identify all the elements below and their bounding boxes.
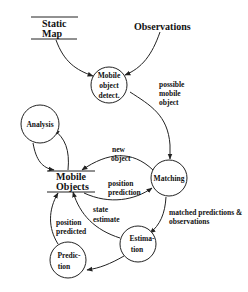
process-estimation: Estima- tion — [120, 226, 156, 262]
estimation-label-1: Estima- — [130, 234, 156, 243]
edge-label-line: estimate — [93, 215, 120, 224]
edge-label-line: matched predictions & — [169, 208, 242, 217]
analysis-label: Analysis — [26, 120, 53, 129]
label-position-predicted: position predicted — [56, 218, 87, 236]
process-mobile-object-detect: Mobile object detect. — [91, 67, 127, 103]
detect-label-3: detect. — [98, 91, 119, 100]
prediction-label-1: Predic- — [57, 251, 81, 260]
label-position-prediction: position prediction — [108, 179, 142, 197]
edge-label-line: position — [56, 218, 82, 227]
label-matched-predictions: matched predictions & observations — [169, 208, 242, 226]
edge-static-map-to-detect — [56, 40, 93, 76]
edge-label-line: mobile — [159, 89, 181, 98]
detect-label-2: object — [99, 81, 119, 90]
edge-label-line: new — [112, 145, 126, 154]
edge-analysis-to-mobile-objects — [33, 143, 54, 170]
edge-label-line: possible — [159, 80, 185, 89]
process-circle — [50, 242, 86, 278]
edge-label-line: observations — [169, 217, 210, 226]
static-map-store: Static Map — [31, 17, 78, 39]
edge-observations-to-detect — [125, 32, 160, 75]
edge-label-line: object — [111, 154, 131, 163]
estimation-label-2: tion — [131, 245, 144, 254]
process-circle — [120, 226, 156, 262]
edge-label-line: predicted — [56, 227, 87, 236]
mobile-objects-store: Mobile Objects — [47, 171, 95, 192]
mobile-objects-label-2: Objects — [56, 181, 89, 192]
static-map-label-2: Map — [42, 28, 62, 39]
edge-mobile-objects-to-analysis — [54, 130, 68, 170]
edge-estimation-to-prediction — [87, 256, 124, 270]
edge-label-line: state — [93, 205, 109, 214]
label-state-estimate: state estimate — [93, 205, 120, 224]
edge-label-line: prediction — [108, 188, 142, 197]
detect-label-1: Mobile — [98, 71, 121, 80]
observations-label: Observations — [134, 21, 191, 32]
label-new-object: new object — [111, 145, 131, 163]
edge-label-line: position — [108, 179, 134, 188]
data-flow-diagram: Static Map Observations Mobile object de… — [0, 0, 248, 292]
prediction-label-2: tion — [58, 262, 71, 271]
process-prediction: Predic- tion — [50, 242, 86, 278]
edge-matched — [150, 197, 166, 233]
matching-label: Matching — [154, 174, 185, 183]
edge-label-line: object — [159, 98, 179, 107]
process-matching: Matching — [151, 160, 187, 196]
process-analysis: Analysis — [21, 105, 59, 143]
label-possible-mobile-object: possible mobile object — [159, 80, 185, 107]
